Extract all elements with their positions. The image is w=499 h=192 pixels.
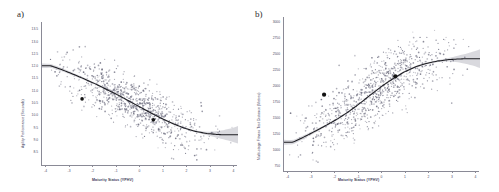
panel-a-ytick-13-5: 13.5 xyxy=(24,27,38,31)
panel-b-ytick-3000: 3000 xyxy=(264,20,280,24)
panel-b-xtickmark-5 xyxy=(381,171,382,173)
panel-b-ytick-1500: 1500 xyxy=(264,116,280,120)
panel-b-xtick-2: 2 xyxy=(421,175,436,179)
panel-b-ytick-1750: 1750 xyxy=(264,100,280,104)
panel-a-xtick-2: 2 xyxy=(179,169,194,173)
panel-a-ytick-10-0: 10.0 xyxy=(24,113,38,117)
panel-b-xtick-0: 0 xyxy=(374,175,389,179)
panel-a-xtickmark-8 xyxy=(210,165,211,167)
scatter-points xyxy=(289,30,469,163)
highlighted-data-point-2 xyxy=(393,74,397,78)
panel-a-xtickmark-2 xyxy=(69,165,70,167)
panel-b-xtick-3: 3 xyxy=(445,175,460,179)
panel-b-xtick-neg2: -2 xyxy=(327,175,342,179)
panel-a-xtickmark-7 xyxy=(186,165,187,167)
panel-a-ytick-8-5: 8.5 xyxy=(24,150,38,154)
panel-b-ytick-2750: 2750 xyxy=(264,36,280,40)
panel-a-xtickmark-3 xyxy=(92,165,93,167)
highlighted-data-point-1 xyxy=(80,97,84,101)
panel-a: a) Agility Performance (Seconds) Maturit… xyxy=(0,0,249,192)
panel-b-xtickmark-9 xyxy=(475,171,476,173)
panel-b-xtickmark-3 xyxy=(334,171,335,173)
panel-a-xtick-0: 0 xyxy=(132,169,147,173)
panel-b-plot xyxy=(284,17,480,171)
panel-b-xtick-4: 4 xyxy=(468,175,483,179)
panel-a-xtick-neg3: -3 xyxy=(62,169,77,173)
panel-a-xtick-neg4: -4 xyxy=(38,169,53,173)
panel-a-ytick-12-0: 12.0 xyxy=(24,64,38,68)
panel-b-xtickmark-4 xyxy=(358,171,359,173)
panel-b-xtickmark-8 xyxy=(452,171,453,173)
panel-b-ytick-2500: 2500 xyxy=(264,52,280,56)
panel-a-label: a) xyxy=(17,9,24,19)
panel-a-xtickmark-4 xyxy=(116,165,117,167)
panel-a-xtick-neg2: -2 xyxy=(85,169,100,173)
panel-b-xtick-neg4: -4 xyxy=(280,175,295,179)
panel-b-ytick-2000: 2000 xyxy=(264,84,280,88)
confidence-band xyxy=(284,49,480,145)
panel-a-ytick-10-5: 10.5 xyxy=(24,101,38,105)
highlighted-data-point-1 xyxy=(321,93,325,97)
panel-a-xtickmark-1 xyxy=(45,165,46,167)
panel-a-x-axis-title: Maturity Status (YPHV) xyxy=(92,178,133,182)
panel-b-label: b) xyxy=(255,9,263,19)
panel-b-xtickmark-7 xyxy=(428,171,429,173)
panel-b-xtickmark-2 xyxy=(311,171,312,173)
panel-a-xtickmark-6 xyxy=(163,165,164,167)
panel-a-xtickmark-5 xyxy=(139,165,140,167)
panel-a-xtick-3: 3 xyxy=(203,169,218,173)
highlighted-data-point-2 xyxy=(151,118,155,122)
panel-b: b) Multi-stage Fitness Test Distance (Me… xyxy=(250,0,499,192)
panel-b-y-axis-title: Multi-stage Fitness Test Distance (Metre… xyxy=(257,93,261,160)
panel-b-ytick-2250: 2250 xyxy=(264,68,280,72)
panel-a-ytick-11-5: 11.5 xyxy=(24,76,38,80)
panel-a-xtick-1: 1 xyxy=(156,169,171,173)
panel-a-ytick-9-0: 9.0 xyxy=(24,138,38,142)
panel-a-ytick-11-0: 11.0 xyxy=(24,89,38,93)
panel-b-ytick-750: 750 xyxy=(264,164,280,168)
panel-b-ytick-1000: 1000 xyxy=(264,148,280,152)
panel-a-ytick-12-5: 12.5 xyxy=(24,52,38,56)
panel-b-xtick-neg3: -3 xyxy=(304,175,319,179)
panel-b-xtickmark-1 xyxy=(287,171,288,173)
panel-a-plot xyxy=(42,22,238,165)
scatter-points xyxy=(49,46,232,161)
panel-a-xtickmark-9 xyxy=(233,165,234,167)
panel-b-ytick-1250: 1250 xyxy=(264,132,280,136)
panel-a-xtick-neg1: -1 xyxy=(109,169,124,173)
panel-a-ytick-13-0: 13.0 xyxy=(24,40,38,44)
panel-a-xtick-4: 4 xyxy=(226,169,241,173)
panel-a-ytick-9-5: 9.5 xyxy=(24,126,38,130)
panel-b-xtick-1: 1 xyxy=(398,175,413,179)
figure-container: a) Agility Performance (Seconds) Maturit… xyxy=(0,0,499,192)
panel-b-xtickmark-6 xyxy=(405,171,406,173)
panel-b-xtick-neg1: -1 xyxy=(351,175,366,179)
